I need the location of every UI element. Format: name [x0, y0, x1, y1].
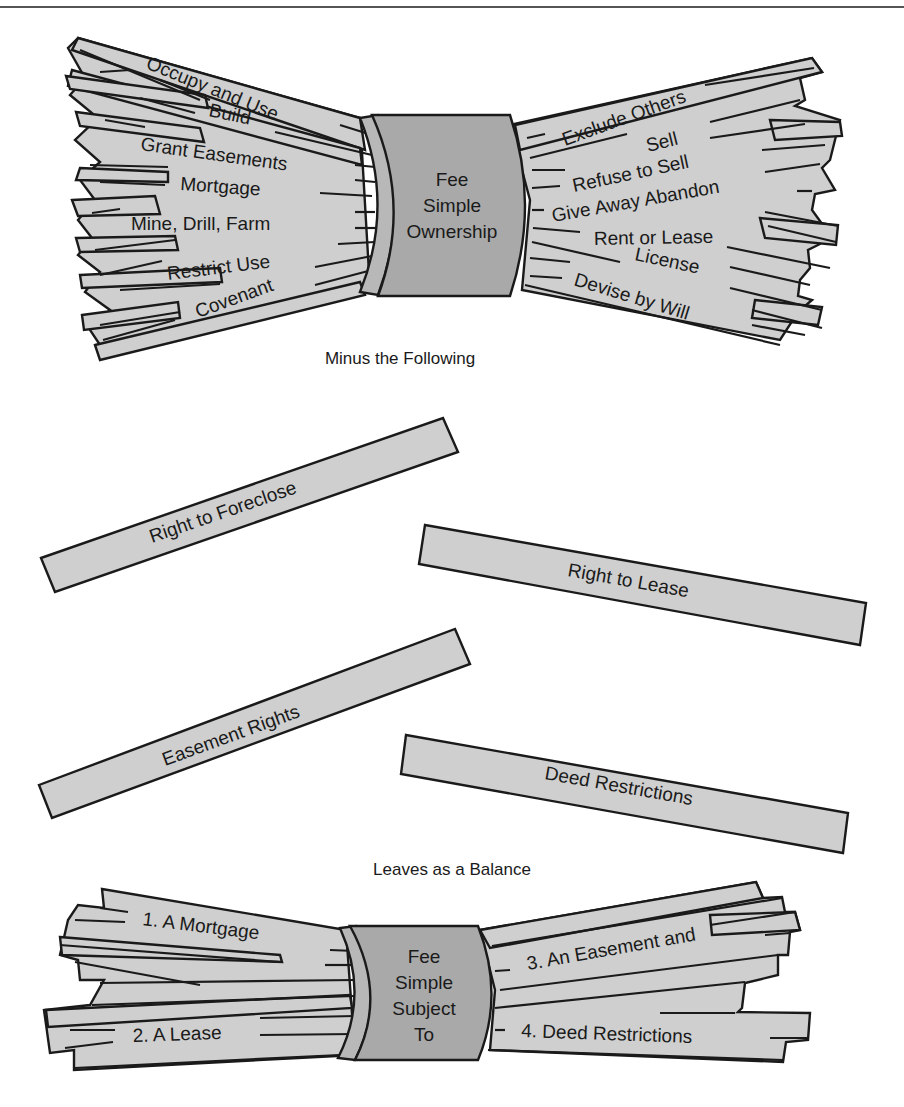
bottom-center-label-line-4: To: [414, 1024, 434, 1045]
removed-stick-right-to-lease: Right to Lease: [419, 525, 866, 645]
bottom-center-label-line-2: Simple: [395, 972, 453, 993]
top-bundle: Fee Simple Ownership Occupy and Use Buil…: [66, 38, 842, 360]
stick-rent-or-lease: Rent or Lease: [594, 226, 714, 249]
top-center-label-line-3: Ownership: [407, 221, 498, 242]
stick-mine-drill-farm: Mine, Drill, Farm: [131, 213, 270, 234]
top-center-label-line-1: Fee: [436, 169, 469, 190]
top-center-band: Fee Simple Ownership: [360, 115, 525, 296]
bottom-bundle: Fee Simple Subject To 1. A Mortgage 2. A…: [44, 882, 810, 1070]
stick-a-lease: 2. A Lease: [132, 1022, 221, 1046]
removed-sticks: Right to Foreclose Right to Lease Easeme…: [39, 418, 866, 853]
removed-stick-right-to-foreclose: Right to Foreclose: [41, 418, 458, 592]
caption-leaves-as-a-balance: Leaves as a Balance: [373, 860, 531, 879]
bottom-center-label-line-3: Subject: [392, 998, 456, 1019]
bundle-of-rights-diagram: Fee Simple Ownership Occupy and Use Buil…: [0, 0, 904, 1107]
removed-stick-easement-rights: Easement Rights: [39, 629, 470, 818]
caption-minus-the-following: Minus the Following: [325, 349, 475, 368]
bottom-center-band: Fee Simple Subject To: [338, 926, 492, 1060]
bottom-center-label-line-1: Fee: [408, 946, 441, 967]
removed-stick-deed-restrictions: Deed Restrictions: [401, 735, 848, 853]
top-center-label-line-2: Simple: [423, 195, 481, 216]
